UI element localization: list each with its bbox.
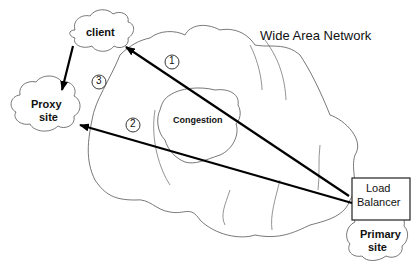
step-2-number: 2 [130, 118, 136, 129]
step-1-number: 1 [169, 55, 175, 66]
load-balancer-label-line2: Balancer [357, 196, 400, 208]
load-balancer-label-line1: Load [366, 182, 390, 194]
step-3-number: 3 [96, 75, 102, 86]
primary-label-line2: site [368, 241, 387, 253]
proxy-label-line2: site [39, 111, 58, 123]
proxy-label-line1: Proxy [31, 98, 62, 110]
network-label: Wide Area Network [260, 28, 371, 43]
primary-label-line1: Primary [360, 228, 401, 240]
client-label: client [86, 26, 115, 38]
congestion-label: Congestion [173, 115, 223, 125]
